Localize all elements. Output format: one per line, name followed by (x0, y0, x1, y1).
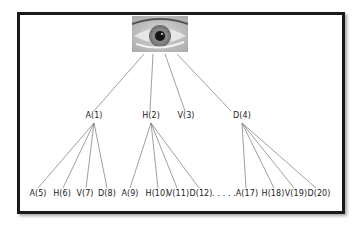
node-v11: V(11) (167, 189, 189, 198)
node-d4: D(4) (233, 111, 251, 120)
node-d8: D(8) (98, 189, 116, 198)
node-d20: D(20) (307, 189, 330, 198)
node-a5: A(5) (29, 189, 46, 198)
ellipsis: . . . . . (212, 189, 236, 198)
edge-root-h2 (150, 54, 153, 111)
node-h6: H(6) (53, 189, 71, 198)
edge-root-v3 (165, 54, 185, 111)
eye-image (132, 16, 188, 52)
node-a17: A(17) (236, 189, 258, 198)
eye-icon (132, 16, 188, 52)
node-v3: V(3) (177, 111, 194, 120)
node-a9: A(9) (121, 189, 138, 198)
node-h18: H(18) (262, 189, 285, 198)
edge-root-a1 (94, 54, 144, 111)
edge-root-d4 (177, 54, 231, 111)
node-h10: H(10) (146, 189, 169, 198)
node-d12: D(12) (189, 189, 212, 198)
node-h2: H(2) (142, 111, 160, 120)
node-v19: V(19) (285, 189, 307, 198)
node-a1: A(1) (85, 111, 102, 120)
node-v7: V(7) (76, 189, 93, 198)
